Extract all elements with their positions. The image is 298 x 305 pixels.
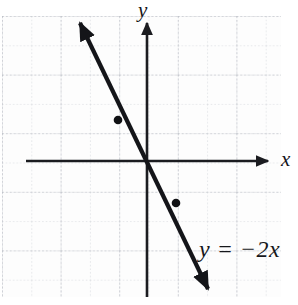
equation-label: y = −2x: [199, 237, 280, 261]
y-axis-label: y: [138, 0, 147, 21]
data-point: [172, 199, 181, 208]
graph-figure: y x y = −2x: [0, 0, 298, 305]
data-point: [114, 116, 123, 125]
x-axis-label: x: [281, 149, 290, 170]
